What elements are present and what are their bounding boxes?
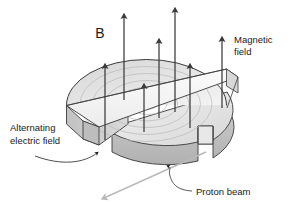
cyclotron-svg: B Magnetic field Alternating electric fi… — [0, 0, 293, 213]
alternating-field-label-line1: Alternating — [10, 122, 55, 133]
magnetic-field-label-line2: field — [234, 46, 251, 57]
alternating-field-label-line2: electric field — [10, 135, 60, 146]
cyclotron-diagram: B Magnetic field Alternating electric fi… — [0, 0, 293, 213]
magnetic-field-symbol-label: B — [95, 25, 104, 41]
beam-exit-port — [198, 126, 213, 144]
proton-beam-label: Proton beam — [196, 186, 250, 197]
magnetic-field-label-line1: Magnetic — [234, 34, 273, 45]
